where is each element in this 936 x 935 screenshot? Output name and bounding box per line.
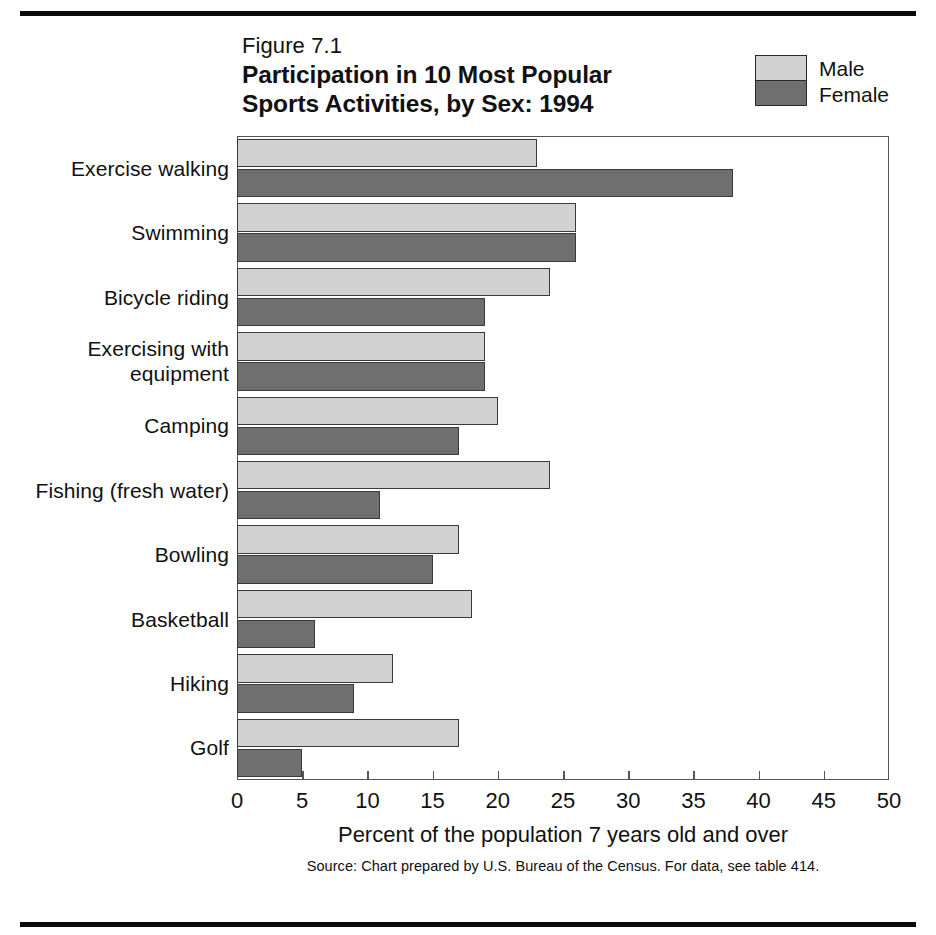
x-axis-tick-label: 40 xyxy=(746,788,770,814)
legend-swatch-stacked xyxy=(755,55,807,106)
x-axis-tick-label: 10 xyxy=(355,788,379,814)
bar-male xyxy=(237,397,498,426)
category-label-line: Golf xyxy=(0,735,229,760)
x-axis-tick xyxy=(824,771,826,780)
x-axis-tick xyxy=(433,771,435,780)
legend-labels: Male Female xyxy=(819,55,889,107)
x-axis: 05101520253035404550 xyxy=(237,780,889,781)
x-axis-tick-label: 20 xyxy=(486,788,510,814)
x-axis-tick-label: 0 xyxy=(231,788,243,814)
bar-male xyxy=(237,139,537,168)
x-axis-tick xyxy=(628,771,630,780)
source-note: Source: Chart prepared by U.S. Bureau of… xyxy=(237,857,889,875)
x-axis-tick xyxy=(367,771,369,780)
legend-swatch-male xyxy=(756,56,806,80)
x-axis-tick-label: 45 xyxy=(812,788,836,814)
bar-male xyxy=(237,719,459,748)
bar-female xyxy=(237,620,315,649)
chart-legend: Male Female xyxy=(755,55,889,107)
category-label-line: Exercising with xyxy=(0,336,229,361)
figure-container: Figure 7.1 Participation in 10 Most Popu… xyxy=(0,16,936,921)
x-axis-tick-label: 30 xyxy=(616,788,640,814)
figure-title-line-2: Sports Activities, by Sex: 1994 xyxy=(242,89,672,118)
category-label: Golf xyxy=(0,735,229,760)
category-label: Swimming xyxy=(0,220,229,245)
bar-male xyxy=(237,654,393,683)
figure-title: Participation in 10 Most Popular Sports … xyxy=(242,60,672,118)
bar-male xyxy=(237,590,472,619)
category-label: Exercise walking xyxy=(0,156,229,181)
x-axis-tick xyxy=(563,771,565,780)
category-label: Camping xyxy=(0,413,229,438)
bar-male xyxy=(237,268,550,297)
bar-group xyxy=(237,397,889,456)
category-label-line: Bicycle riding xyxy=(0,285,229,310)
figure-number: Figure 7.1 xyxy=(242,33,342,59)
bar-male xyxy=(237,461,550,490)
figure-title-line-1: Participation in 10 Most Popular xyxy=(242,60,672,89)
bottom-horizontal-rule xyxy=(20,922,916,927)
x-axis-tick-label: 25 xyxy=(551,788,575,814)
category-label-line: Swimming xyxy=(0,220,229,245)
bar-female xyxy=(237,298,485,327)
category-label-line: Exercise walking xyxy=(0,156,229,181)
bar-group xyxy=(237,654,889,713)
bar-male xyxy=(237,525,459,554)
x-axis-tick xyxy=(302,771,304,780)
bar-group xyxy=(237,590,889,649)
page-header-strip xyxy=(0,0,936,11)
category-label-line: Bowling xyxy=(0,542,229,567)
category-label-line: Fishing (fresh water) xyxy=(0,478,229,503)
bar-female xyxy=(237,169,733,198)
bar-female xyxy=(237,233,576,262)
category-label-line: equipment xyxy=(0,361,229,386)
bar-group xyxy=(237,332,889,391)
x-axis-tick-label: 50 xyxy=(877,788,901,814)
bar-group xyxy=(237,139,889,198)
bar-group xyxy=(237,268,889,327)
legend-swatch-female xyxy=(756,81,806,105)
category-label: Basketball xyxy=(0,607,229,632)
bar-female xyxy=(237,491,380,520)
bar-group xyxy=(237,461,889,520)
category-label-line: Basketball xyxy=(0,607,229,632)
bar-female xyxy=(237,555,433,584)
category-label: Hiking xyxy=(0,671,229,696)
x-axis-tick xyxy=(693,771,695,780)
bar-female xyxy=(237,684,354,713)
x-axis-tick xyxy=(498,771,500,780)
category-label: Bicycle riding xyxy=(0,285,229,310)
bar-female xyxy=(237,749,302,778)
bars-layer xyxy=(237,136,889,780)
legend-label-male: Male xyxy=(819,56,889,82)
x-axis-tick-label: 15 xyxy=(420,788,444,814)
category-label: Exercising withequipment xyxy=(0,336,229,386)
bar-male xyxy=(237,332,485,361)
category-label: Fishing (fresh water) xyxy=(0,478,229,503)
x-axis-tick-labels: 05101520253035404550 xyxy=(237,788,889,818)
bar-female xyxy=(237,362,485,391)
x-axis-tick-label: 35 xyxy=(681,788,705,814)
bar-group xyxy=(237,525,889,584)
bar-group xyxy=(237,203,889,262)
bar-group xyxy=(237,719,889,778)
category-label-line: Camping xyxy=(0,413,229,438)
category-axis-labels: Exercise walkingSwimmingBicycle ridingEx… xyxy=(0,136,229,780)
bar-female xyxy=(237,427,459,456)
bar-male xyxy=(237,203,576,232)
category-label: Bowling xyxy=(0,542,229,567)
legend-label-female: Female xyxy=(819,82,889,108)
x-axis-tick xyxy=(759,771,761,780)
x-axis-title: Percent of the population 7 years old an… xyxy=(237,822,889,848)
x-axis-tick-label: 5 xyxy=(296,788,308,814)
category-label-line: Hiking xyxy=(0,671,229,696)
